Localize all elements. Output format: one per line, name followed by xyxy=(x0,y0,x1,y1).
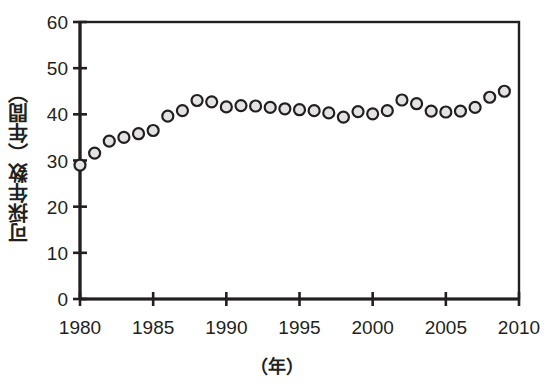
data-point xyxy=(411,98,422,109)
x-tick-label: 2010 xyxy=(498,318,540,337)
data-point xyxy=(250,101,261,112)
data-point xyxy=(455,106,466,117)
data-point xyxy=(177,105,188,116)
x-axis-title: （年） xyxy=(0,352,553,378)
x-tick-label: 2005 xyxy=(425,318,467,337)
data-point xyxy=(353,106,364,117)
data-point xyxy=(499,86,510,97)
axis-frame xyxy=(80,22,519,299)
data-point xyxy=(118,132,129,143)
data-point xyxy=(221,101,232,112)
data-point xyxy=(279,103,290,114)
x-tick-label: 1990 xyxy=(205,318,247,337)
data-point xyxy=(440,107,451,118)
data-point xyxy=(206,96,217,107)
data-point xyxy=(235,100,246,111)
x-tick-label: 2000 xyxy=(352,318,394,337)
data-point xyxy=(89,148,100,159)
data-point xyxy=(133,128,144,139)
data-point xyxy=(396,95,407,106)
data-point xyxy=(309,105,320,116)
data-series xyxy=(75,86,510,171)
data-point xyxy=(426,106,437,117)
x-tick-label: 1985 xyxy=(132,318,174,337)
data-point xyxy=(484,92,495,103)
chart-figure: 可採年数（年間） 0102030405060 19801985199019952… xyxy=(0,0,553,390)
data-point xyxy=(148,125,159,136)
data-point xyxy=(323,107,334,118)
x-tick-label: 1980 xyxy=(59,318,101,337)
data-point xyxy=(192,95,203,106)
data-point xyxy=(382,105,393,116)
data-point xyxy=(265,102,276,113)
x-tick-label: 1995 xyxy=(278,318,320,337)
data-point xyxy=(367,108,378,119)
data-point xyxy=(162,111,173,122)
data-point xyxy=(338,112,349,123)
data-point xyxy=(294,104,305,115)
data-point xyxy=(75,160,86,171)
data-point xyxy=(470,102,481,113)
data-point xyxy=(104,136,115,147)
